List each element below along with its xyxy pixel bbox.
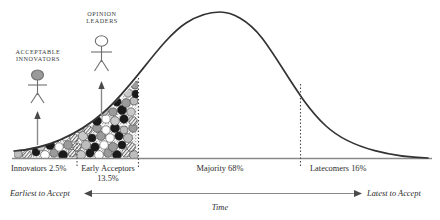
label-opinion-leaders: OPINION LEADERS [72, 10, 132, 24]
label-acceptable-innovators-line1: ACCEPTABLE [8, 48, 68, 55]
label-acceptable-innovators: ACCEPTABLE INNOVATORS [8, 48, 68, 62]
time-axis-arrow [84, 190, 362, 197]
label-opinion-leaders-line2: LEADERS [72, 17, 132, 24]
arrow-up-opinion-leaders [98, 81, 104, 116]
diffusion-curve-diagram: ACCEPTABLE INNOVATORS OPINION LEADERS In… [0, 0, 440, 220]
segment-label-early-acceptors: Early Acceptors 13.5% [79, 164, 137, 183]
axis-label-earliest-to-accept: Earliest to Accept [10, 189, 70, 199]
arrow-up-innovators [34, 111, 40, 145]
stick-figure-acceptable-innovators [28, 70, 47, 103]
stick-figure-opinion-leaders [91, 36, 112, 71]
segment-label-early-acceptors-line1: Early Acceptors [79, 164, 137, 174]
axis-label-time: Time [0, 203, 440, 213]
segment-label-early-acceptors-line2: 13.5% [79, 174, 137, 184]
axis-label-latest-to-accept: Latest to Accept [367, 189, 421, 199]
label-opinion-leaders-line1: OPINION [72, 10, 132, 17]
segment-label-majority: Majority 68% [160, 164, 280, 174]
segment-label-latecomers: Latecomers 16% [310, 164, 367, 174]
segment-label-innovators: Innovators 2.5% [11, 164, 66, 174]
label-acceptable-innovators-line2: INNOVATORS [8, 55, 68, 62]
curve-graphic [0, 0, 440, 220]
